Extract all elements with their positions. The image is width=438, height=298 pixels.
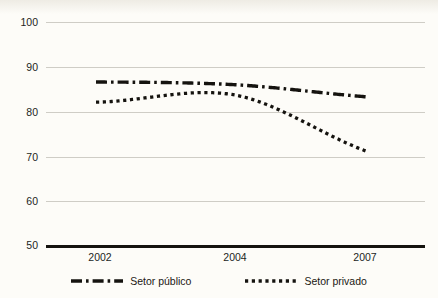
legend-item-setor-privado: Setor privado bbox=[245, 275, 366, 287]
series-line-setor-privado bbox=[96, 93, 366, 151]
dash-dot-line-icon bbox=[71, 276, 123, 286]
dotted-line-icon bbox=[245, 276, 297, 286]
legend-label-setor-publico: Setor público bbox=[130, 275, 191, 287]
chart-figure: 100 90 80 70 60 50 2002 2004 2007 Setor … bbox=[0, 0, 438, 298]
legend-label-setor-privado: Setor privado bbox=[304, 275, 366, 287]
series-line-setor-publico bbox=[96, 82, 366, 97]
plot-area bbox=[0, 0, 438, 298]
legend-item-setor-publico: Setor público bbox=[71, 275, 191, 287]
chart-legend: Setor público Setor privado bbox=[0, 268, 438, 294]
